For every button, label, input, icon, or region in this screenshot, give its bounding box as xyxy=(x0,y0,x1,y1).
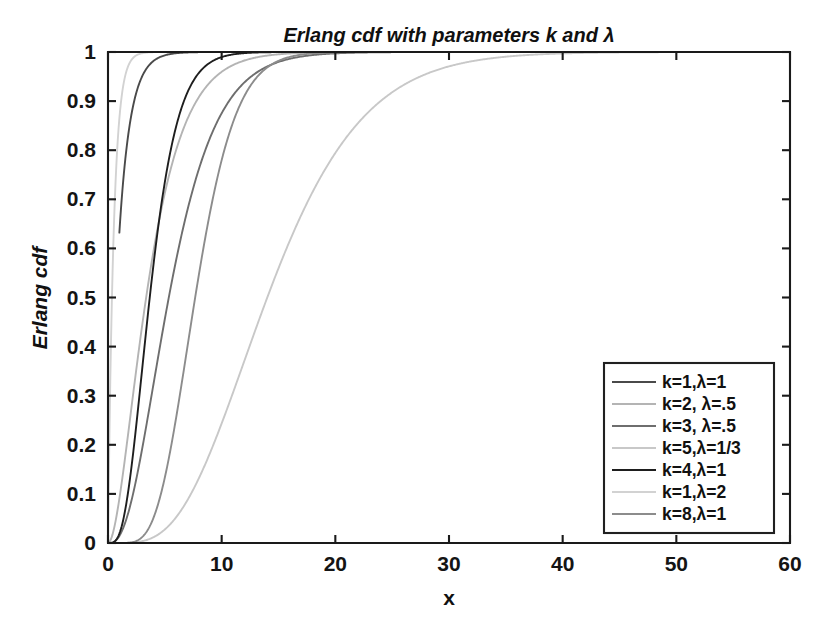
y-tick-label: 0.6 xyxy=(67,236,96,259)
y-tick-label: 0.5 xyxy=(67,286,97,309)
legend-label-1: k=2, λ=.5 xyxy=(662,394,736,414)
x-tick-label: 30 xyxy=(437,552,460,575)
y-tick-label: 0.3 xyxy=(67,384,96,407)
y-tick-label: 0 xyxy=(84,531,96,554)
figure-background xyxy=(0,0,835,631)
erlang-cdf-chart: Erlang cdf with parameters k and λ 01020… xyxy=(0,0,835,631)
legend-label-3: k=5,λ=1/3 xyxy=(662,438,741,458)
y-tick-label: 1 xyxy=(84,40,96,63)
legend-label-2: k=3, λ=.5 xyxy=(662,416,736,436)
legend-label-0: k=1,λ=1 xyxy=(662,372,726,392)
chart-title: Erlang cdf with parameters k and λ xyxy=(283,24,614,46)
legend-label-4: k=4,λ=1 xyxy=(662,460,726,480)
x-tick-label: 20 xyxy=(324,552,347,575)
x-tick-label: 10 xyxy=(210,552,233,575)
y-tick-label: 0.1 xyxy=(67,482,97,505)
y-tick-label: 0.8 xyxy=(67,138,97,161)
legend-label-5: k=1,λ=2 xyxy=(662,482,726,502)
y-tick-label: 0.9 xyxy=(67,89,96,112)
y-tick-label: 0.7 xyxy=(67,187,96,210)
x-tick-label: 0 xyxy=(102,552,114,575)
x-tick-label: 50 xyxy=(665,552,688,575)
y-tick-label: 0.4 xyxy=(67,335,97,358)
y-axis-title: Erlang cdf xyxy=(28,245,51,350)
legend-label-6: k=8,λ=1 xyxy=(662,504,726,524)
x-axis-title: x xyxy=(443,586,455,609)
y-tick-label: 0.2 xyxy=(67,433,96,456)
chart-legend: k=1,λ=1k=2, λ=.5k=3, λ=.5k=5,λ=1/3k=4,λ=… xyxy=(604,363,774,533)
x-tick-label: 40 xyxy=(551,552,574,575)
x-tick-label: 60 xyxy=(778,552,801,575)
